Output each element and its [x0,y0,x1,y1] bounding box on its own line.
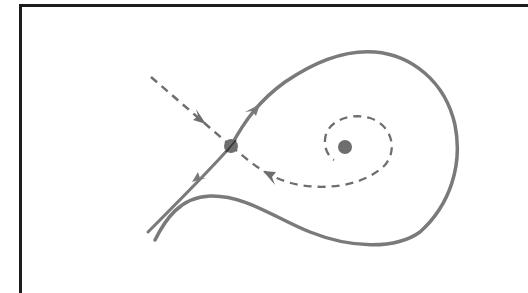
arrow-head-icon [263,171,276,185]
phase-portrait-diagram [0,0,528,293]
focus-point [338,140,352,154]
stable-manifold-spiral [231,116,392,187]
stable-manifold-incoming [151,77,231,146]
unstable-manifold-loop [155,52,457,245]
unstable-manifold-outgoing [148,146,231,232]
